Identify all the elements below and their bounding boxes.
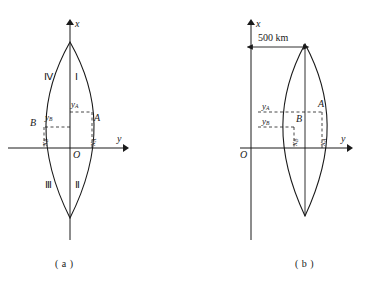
panel-b-yA-label: yA <box>262 102 269 112</box>
panel-a-quadrant-II: Ⅱ <box>75 180 80 190</box>
panel-a-xA-base: x <box>87 142 97 146</box>
diagram-svg <box>0 0 366 285</box>
panel-a-group <box>8 24 124 240</box>
panel-a-xB-label: xB <box>40 139 50 146</box>
panel-a-yA-sub: A <box>75 103 78 109</box>
panel-a-point-B-label: B <box>30 118 36 128</box>
panel-b-xB-label: xB <box>290 139 300 146</box>
panel-b-yB-label: yB <box>262 117 269 127</box>
panel-a-y-axis-label: y <box>117 134 121 144</box>
panel-b-xB-base: x <box>289 142 299 146</box>
panel-b-yA-sub: A <box>266 105 269 111</box>
panel-b-xA-label: xA <box>318 139 328 146</box>
panel-a-caption: ( a ) <box>55 258 74 269</box>
panel-a-quadrant-III: Ⅲ <box>45 180 52 190</box>
panel-b-yB-sub: B <box>266 120 269 126</box>
panel-a-origin-label: O <box>73 150 80 160</box>
panel-a-quadrant-I: Ⅰ <box>75 72 78 82</box>
panel-b-caption: ( b ) <box>295 258 314 269</box>
figure-canvas: x y O Ⅰ Ⅱ Ⅲ Ⅳ A B yA yB xA xB x y O 500 … <box>0 0 366 285</box>
panel-b-xB-sub: B <box>293 139 299 142</box>
panel-a-xB-sub: B <box>43 139 49 142</box>
panel-b-group <box>240 24 348 240</box>
panel-b-dimension-label: 500 km <box>258 33 288 43</box>
panel-b-y-axis-label: y <box>341 134 345 144</box>
panel-b-xA-sub: A <box>321 139 327 142</box>
panel-a-quadrant-IV: Ⅳ <box>44 72 53 82</box>
panel-a-yB-label: yB <box>45 113 52 123</box>
panel-b-x-axis-label: x <box>256 19 260 29</box>
panel-a-xB-base: x <box>39 142 49 146</box>
panel-a-xA-label: xA <box>88 139 98 146</box>
panel-b-xA-base: x <box>317 142 327 146</box>
panel-b-origin-label: O <box>240 150 247 160</box>
panel-a-yA-label: yA <box>71 100 78 110</box>
panel-b-point-A-label: A <box>318 99 324 109</box>
panel-a-point-A-label: A <box>94 113 100 123</box>
panel-a-yB-sub: B <box>49 116 52 122</box>
panel-b-point-B-label: B <box>296 114 302 124</box>
panel-a-x-axis-label: x <box>75 19 79 29</box>
panel-a-xA-sub: A <box>91 139 97 142</box>
